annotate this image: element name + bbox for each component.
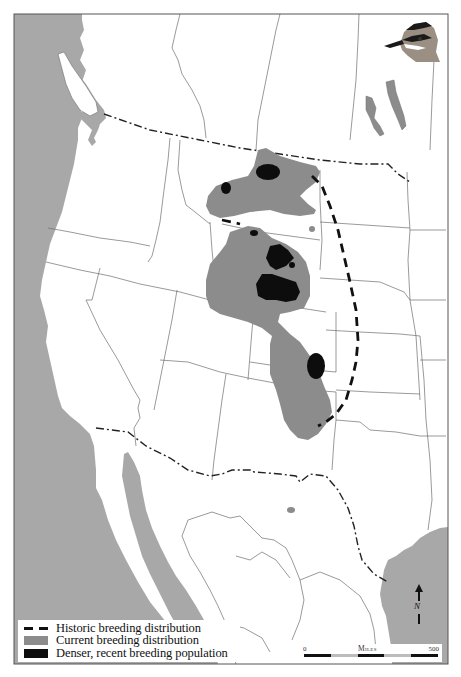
scale-min-label: 0: [303, 645, 307, 653]
scale-bar: 0 Miles 500: [300, 644, 442, 662]
scale-max-label: 500: [429, 645, 440, 653]
dashed-line-icon: [24, 624, 48, 633]
legend-label: Denser, recent breeding population: [56, 646, 228, 661]
north-arrow: N: [412, 584, 426, 630]
map-canvas: [0, 0, 461, 677]
map-legend: Historic breeding distribution Current b…: [18, 620, 240, 662]
scale-title: Miles: [358, 644, 377, 653]
isolated-range-patch: [287, 507, 295, 513]
isolated-range-patch: [309, 226, 315, 232]
scale-segments: [304, 654, 438, 657]
range-map: Historic breeding distribution Current b…: [0, 0, 461, 677]
gray-swatch-icon: [24, 636, 48, 645]
north-label: N: [414, 601, 420, 611]
legend-item-dense: Denser, recent breeding population: [24, 647, 236, 660]
black-swatch-icon: [24, 649, 48, 658]
